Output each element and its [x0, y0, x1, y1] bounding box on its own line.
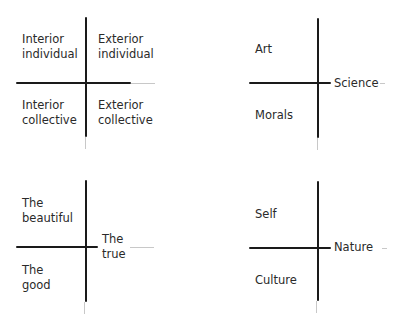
label-nature: Nature [334, 240, 373, 255]
vertical-axis [317, 18, 319, 138]
diagram-art-science-morals: Art Science Morals [202, 0, 404, 163]
vertical-axis [85, 17, 87, 137]
vertical-axis [317, 181, 319, 301]
horizontal-axis-fade [380, 83, 385, 84]
horizontal-axis [249, 247, 331, 249]
label-art: Art [255, 42, 272, 57]
horizontal-axis-fade [130, 247, 154, 248]
vertical-axis [85, 180, 87, 302]
diagram-beautiful-true-good: The beautiful The true The good [0, 163, 202, 326]
horizontal-axis [249, 82, 331, 84]
label-top-left: Interior individual [22, 32, 78, 62]
vertical-axis-fade [84, 302, 85, 314]
diagram-quadrants: Interior individual Exterior individual … [0, 0, 202, 163]
label-science: Science [334, 76, 379, 91]
label-bottom-right: Exterior collective [98, 98, 153, 128]
horizontal-axis-fade [131, 83, 155, 84]
horizontal-axis [16, 82, 131, 84]
label-culture: Culture [255, 273, 297, 288]
vertical-axis-fade [316, 301, 317, 313]
label-bottom-left: Interior collective [22, 98, 77, 128]
horizontal-axis [16, 246, 98, 248]
label-the-beautiful: The beautiful [22, 196, 73, 226]
vertical-axis-fade [317, 138, 318, 150]
label-the-true: The true [102, 232, 126, 262]
horizontal-axis-fade [382, 248, 387, 249]
label-morals: Morals [255, 108, 293, 123]
diagram-self-nature-culture: Self Nature Culture [202, 163, 404, 326]
vertical-axis-fade [85, 137, 86, 149]
label-the-good: The good [22, 263, 51, 293]
label-self: Self [255, 207, 277, 222]
label-top-right: Exterior individual [98, 32, 154, 62]
